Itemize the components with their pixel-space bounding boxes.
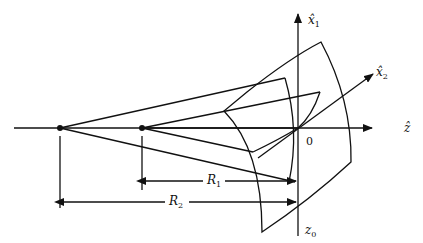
center-point-2 <box>57 125 63 131</box>
x2-axis-label: x̂2 <box>376 66 388 81</box>
origin-label: 0 <box>306 136 313 147</box>
x2-axis <box>258 74 373 158</box>
x1-axis-label: x̂1 <box>308 14 320 29</box>
z0-label: z0 <box>305 224 316 239</box>
optics-diagram: x̂1 x̂2 ẑ 0 z0 R1 R2 <box>0 0 423 243</box>
diagram-canvas <box>0 0 423 243</box>
z-axis-label: ẑ <box>404 122 410 134</box>
center-point-1 <box>139 125 145 131</box>
R2-label: R2 <box>169 195 183 210</box>
R1-label: R1 <box>207 174 221 189</box>
